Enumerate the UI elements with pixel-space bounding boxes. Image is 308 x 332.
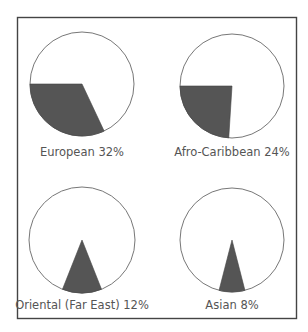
pie-label: Oriental (Far East) 12% [15, 298, 149, 312]
pie-label: Afro-Caribbean 24% [174, 145, 290, 159]
pie-label: Asian 8% [205, 298, 258, 312]
pie-charts-figure: European 32%Afro-Caribbean 24%Oriental (… [0, 0, 308, 332]
pie-label: European 32% [40, 145, 124, 159]
